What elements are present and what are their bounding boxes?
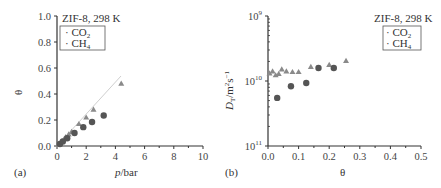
chart-b: 0.00.10.20.30.40.510910101011 ZIF-8, 298… (223, 9, 432, 179)
x-tick-label: 10 (198, 151, 209, 162)
x-tick-label: 2 (84, 151, 89, 162)
x-tick-label: 6 (142, 151, 147, 162)
x-tick-label: 0.5 (414, 151, 427, 162)
data-point-circle (315, 65, 321, 71)
y-tick-label: 109 (248, 9, 263, 22)
panel-label: (b) (225, 166, 238, 179)
figure: 02468100.00.20.40.60.81.0 ZIF-8, 298 K ·… (0, 0, 441, 188)
chart-a: 02468100.00.20.40.60.81.0 ZIF-8, 298 K ·… (12, 11, 208, 180)
y-axis-label: θ (12, 90, 24, 95)
data-point-circle (80, 124, 86, 130)
x-axis-label: p/bar (114, 166, 138, 178)
y-tick-label: 0.6 (38, 63, 51, 74)
x-tick-label: 0.1 (292, 151, 305, 162)
y-tick-label: 0.2 (38, 115, 51, 126)
y-tick-label: 1011 (245, 139, 263, 152)
y-tick-label: 0.8 (38, 37, 51, 48)
data-point-circle (288, 83, 294, 89)
data-point-circle (303, 80, 309, 86)
chart-title: ZIF-8, 298 K (62, 12, 120, 24)
x-tick-label: 8 (171, 151, 176, 162)
data-point-triangle (289, 69, 295, 74)
x-tick-label: 0.3 (353, 151, 366, 162)
data-point-triangle (308, 64, 314, 69)
y-tick-label: 1.0 (38, 11, 51, 22)
data-point-triangle (343, 58, 349, 63)
chart-title: ZIF-8, 298 K (374, 12, 432, 24)
x-tick-label: 0 (54, 151, 59, 162)
y-axis-label: DT/m2s−1 (223, 70, 237, 111)
x-tick-label: 0.0 (261, 151, 274, 162)
y-tick-label: 0.4 (38, 89, 52, 100)
data-point-circle (71, 130, 77, 136)
x-tick-label: 0.4 (384, 151, 398, 162)
data-point-triangle (296, 69, 302, 74)
data-point-circle (64, 135, 70, 141)
x-tick-label: 0.2 (323, 151, 336, 162)
data-point-triangle (279, 66, 285, 71)
data-point-circle (331, 65, 337, 71)
data-point-triangle (276, 71, 282, 76)
data-point-circle (274, 95, 280, 101)
data-point-circle (89, 119, 95, 125)
x-tick-label: 4 (113, 151, 119, 162)
panel-label: (a) (14, 166, 27, 179)
data-point-triangle (270, 68, 276, 73)
y-tick-label: 1010 (245, 74, 263, 87)
data-point-circle (101, 112, 107, 118)
data-point-triangle (118, 81, 124, 86)
data-point-triangle (91, 107, 97, 112)
x-axis-label: θ (340, 166, 345, 178)
y-tick-label: 0.0 (38, 141, 51, 152)
